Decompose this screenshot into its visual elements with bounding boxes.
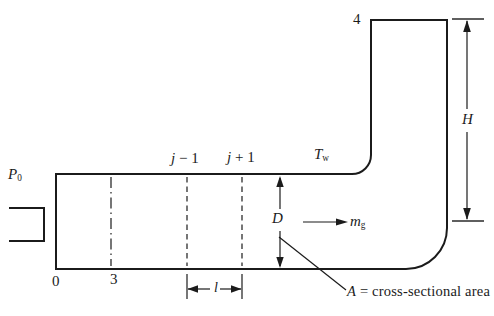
- station-3-label: 3: [110, 272, 118, 287]
- h-arrowhead-up-icon: [463, 20, 471, 32]
- duct-chimney-diagram: P0 0 3 j − 1 j + 1 Tw 4 H D mg l A = cro…: [0, 0, 494, 316]
- l-arrowhead-left-icon: [188, 285, 199, 292]
- area-leader-line: [279, 237, 346, 290]
- stack-height-label: H: [462, 112, 473, 127]
- d-arrowhead-down-icon: [276, 257, 283, 268]
- station-j-plus-label: j + 1: [227, 150, 255, 165]
- inlet-nozzle-outline: [9, 208, 44, 241]
- wall-temperature-label: Tw: [314, 147, 329, 162]
- segment-length-label: l: [214, 281, 218, 295]
- duct-diameter-label: D: [272, 211, 283, 226]
- station-4-label: 4: [353, 12, 361, 27]
- gas-flow-label: mg: [350, 214, 366, 229]
- l-arrowhead-right-icon: [231, 285, 242, 292]
- area-note-label: A = cross-sectional area: [347, 284, 490, 299]
- inlet-pressure-label: P0: [8, 167, 22, 182]
- d-arrowhead-up-icon: [276, 176, 283, 187]
- station-j-minus-label: j − 1: [171, 151, 199, 166]
- duct-outline: [56, 20, 447, 269]
- gas-flow-arrowhead-icon: [336, 219, 348, 226]
- h-arrowhead-down-icon: [463, 208, 471, 220]
- station-0-label: 0: [52, 274, 60, 289]
